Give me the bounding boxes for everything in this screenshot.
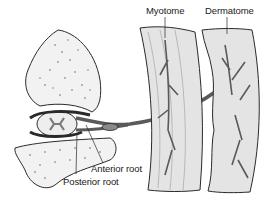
spinal-cord xyxy=(30,111,90,137)
dermatome-label: Dermatome xyxy=(205,6,254,16)
anterior-root-label: Anterior root xyxy=(91,164,142,174)
dermatome-band xyxy=(202,29,259,193)
posterior-root-label: Posterior root xyxy=(63,177,119,187)
nerve-root-diagram: Myotome Dermatome Anterior root Posterio… xyxy=(0,0,267,201)
myotome-band xyxy=(140,27,202,192)
myotome-label: Myotome xyxy=(146,6,184,16)
upper-vertebra xyxy=(26,30,101,112)
